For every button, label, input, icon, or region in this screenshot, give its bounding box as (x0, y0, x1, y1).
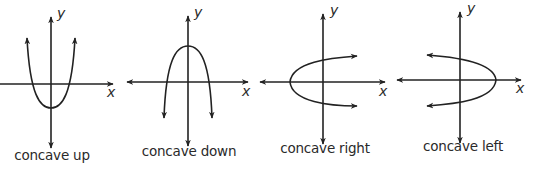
y-axis-label: y (330, 2, 338, 18)
x-axis-label: x (379, 83, 387, 99)
y-axis-label: y (467, 0, 475, 16)
panel-concave-down (127, 16, 248, 146)
panel-concave-left (397, 12, 521, 143)
x-axis-label: x (516, 80, 524, 96)
y-axis-label: y (194, 4, 202, 20)
y-axis-label: y (57, 5, 65, 21)
x-axis-label: x (107, 84, 115, 100)
x-axis-label: x (242, 83, 250, 99)
caption-concave-up: concave up (14, 147, 90, 163)
caption-concave-right: concave right (280, 140, 370, 156)
panel-concave-up (0, 17, 113, 148)
panel-concave-right (260, 14, 385, 144)
concavity-diagram: y x y x y x y x concave up concave down … (0, 0, 540, 172)
caption-concave-left: concave left (423, 138, 503, 154)
caption-concave-down: concave down (142, 143, 237, 159)
